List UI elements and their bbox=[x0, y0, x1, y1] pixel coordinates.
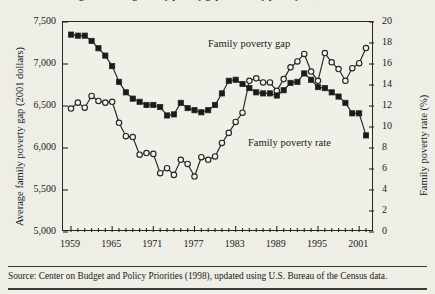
figure-title-text: Figure 2. Average family poverty gap and… bbox=[0, 0, 435, 1]
annotation-family-poverty-gap: Family poverty gap bbox=[208, 38, 290, 49]
figure-title-clipped: Figure 2. Average family poverty gap and… bbox=[0, 0, 435, 9]
right-tick-label: 0 bbox=[382, 226, 408, 236]
right-tick-label: 4 bbox=[382, 184, 408, 194]
annotation-family-poverty-rate: Family poverty rate bbox=[248, 137, 331, 148]
right-tick-label: 8 bbox=[382, 142, 408, 152]
x-tick-label: 1995 bbox=[307, 239, 327, 249]
plot-area bbox=[62, 21, 373, 231]
right-tick-label: 14 bbox=[382, 79, 408, 89]
right-axis-title: Family poverty rate (%) bbox=[418, 95, 429, 196]
x-tick-label: 1965 bbox=[101, 239, 121, 249]
right-tick-label: 10 bbox=[382, 121, 408, 131]
left-axis-title: Average family poverty gap (2001 dollars… bbox=[14, 47, 25, 226]
right-tick-label: 20 bbox=[382, 16, 408, 26]
left-tick-label: 6,500 bbox=[0, 100, 56, 110]
right-tick-label: 16 bbox=[382, 58, 408, 68]
left-tick-label: 5,000 bbox=[0, 226, 56, 236]
left-tick-label: 6,000 bbox=[0, 142, 56, 152]
x-tick-label: 1989 bbox=[266, 239, 286, 249]
left-tick-label: 5,500 bbox=[0, 184, 56, 194]
x-tick-label: 1971 bbox=[142, 239, 162, 249]
x-tick-label: 1983 bbox=[225, 239, 245, 249]
plot-canvas bbox=[63, 22, 374, 232]
right-tick-label: 12 bbox=[382, 100, 408, 110]
source-divider-top bbox=[8, 266, 427, 267]
x-tick-label: 1959 bbox=[60, 239, 80, 249]
left-tick-label: 7,000 bbox=[0, 58, 56, 68]
figure-poverty-gap-and-rate: Figure 2. Average family poverty gap and… bbox=[0, 0, 435, 294]
source-note: Source: Center on Budget and Policy Prio… bbox=[8, 271, 429, 282]
right-tick-label: 6 bbox=[382, 163, 408, 173]
x-tick-label: 1977 bbox=[183, 239, 203, 249]
right-tick-label: 18 bbox=[382, 37, 408, 47]
right-tick-label: 2 bbox=[382, 205, 408, 215]
left-tick-label: 7,500 bbox=[0, 16, 56, 26]
source-divider-bottom bbox=[8, 288, 427, 290]
x-tick-label: 2001 bbox=[348, 239, 368, 249]
